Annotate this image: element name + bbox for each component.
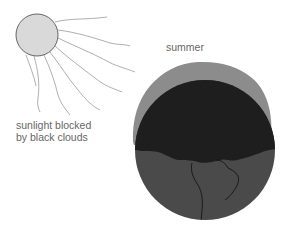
diagram-canvas: summer sunlight blocked by black clouds <box>0 0 283 225</box>
diagram-svg <box>0 0 283 225</box>
sunlight-blocked-line1: sunlight blocked <box>16 119 91 131</box>
sun-icon <box>16 14 58 56</box>
sunlight-blocked-label: sunlight blocked by black clouds <box>16 119 91 143</box>
sunlight-blocked-line2: by black clouds <box>16 131 91 143</box>
summer-label: summer <box>166 41 204 53</box>
